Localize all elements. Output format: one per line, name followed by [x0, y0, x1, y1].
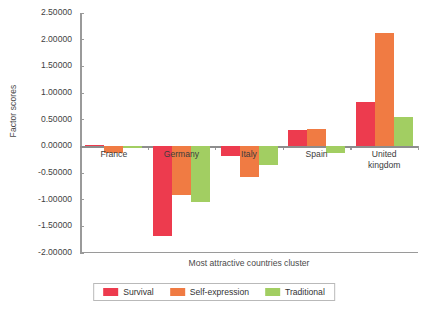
- x-axis-title: Most attractive countries cluster: [80, 258, 418, 268]
- y-tick-mark: [80, 173, 84, 174]
- bar-self-expression-spain: [307, 129, 326, 147]
- bar-chart: Factor scores 2.500002.000001.500001.000…: [0, 0, 428, 313]
- y-tick-label: 1.00000: [2, 87, 72, 97]
- y-tick-mark: [80, 13, 84, 14]
- bar-self-expression-united-kingdom: [375, 33, 394, 146]
- bar-traditional-france: [123, 146, 142, 147]
- category-label: France: [80, 149, 148, 160]
- legend-item[interactable]: Traditional: [265, 287, 325, 297]
- category-label: United kingdom: [350, 149, 418, 170]
- category-label: Germany: [148, 149, 216, 160]
- x-axis-bottom-line: [80, 252, 418, 254]
- y-tick-mark: [80, 226, 84, 227]
- y-tick-label: 1.50000: [2, 60, 72, 70]
- bar-traditional-united-kingdom: [394, 117, 413, 146]
- y-tick-mark: [80, 39, 84, 40]
- y-tick-label: -2.00000: [2, 247, 72, 257]
- bar-survival-france: [85, 145, 104, 147]
- y-tick-label: -0.50000: [2, 167, 72, 177]
- legend-label: Survival: [123, 287, 154, 297]
- legend-swatch-icon: [265, 288, 280, 296]
- y-tick-mark: [80, 119, 84, 120]
- category-label: Italy: [215, 149, 283, 160]
- y-tick-label: 0.00000: [2, 140, 72, 150]
- category-label: Spain: [283, 149, 351, 160]
- legend-label: Traditional: [285, 287, 325, 297]
- legend-swatch-icon: [170, 288, 185, 296]
- y-tick-label: 2.50000: [2, 7, 72, 17]
- y-tick-mark: [80, 93, 84, 94]
- bar-survival-spain: [288, 130, 307, 146]
- legend-swatch-icon: [103, 288, 118, 296]
- legend-item[interactable]: Self-expression: [170, 287, 249, 297]
- legend-item[interactable]: Survival: [103, 287, 154, 297]
- y-axis-line: [80, 13, 82, 253]
- y-tick-label: -1.50000: [2, 220, 72, 230]
- x-tick-mark: [418, 146, 419, 150]
- bar-survival-united-kingdom: [356, 102, 375, 146]
- legend: SurvivalSelf-expressionTraditional: [93, 283, 335, 301]
- y-tick-mark: [80, 66, 84, 67]
- y-tick-mark: [80, 199, 84, 200]
- legend-label: Self-expression: [190, 287, 249, 297]
- plot-area: 2.500002.000001.500001.000000.500000.000…: [80, 13, 418, 253]
- y-tick-mark: [80, 253, 84, 254]
- y-tick-label: -1.00000: [2, 194, 72, 204]
- y-tick-label: 0.50000: [2, 114, 72, 124]
- y-tick-label: 2.00000: [2, 34, 72, 44]
